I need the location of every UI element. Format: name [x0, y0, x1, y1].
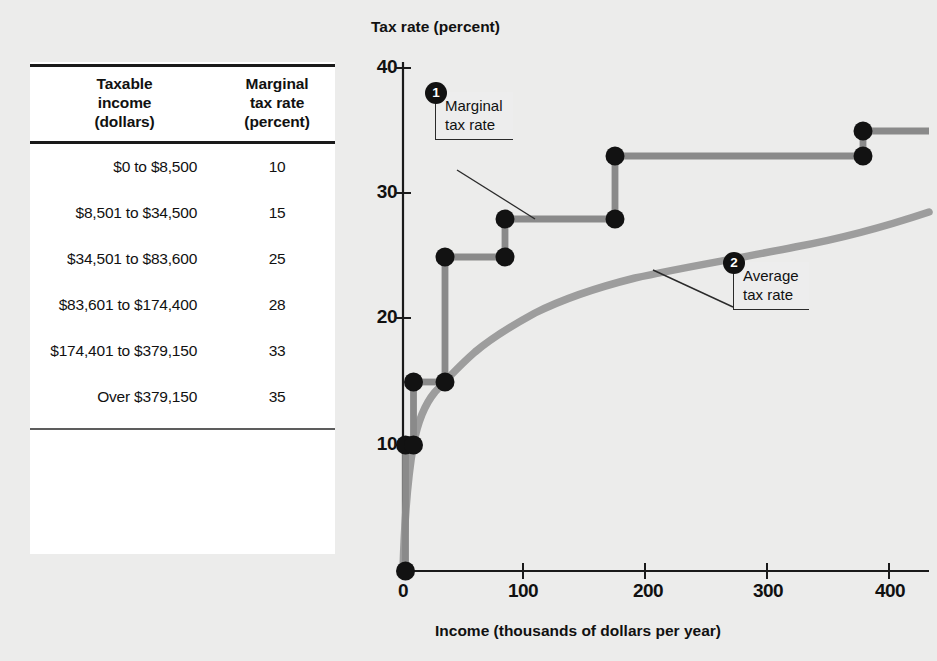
- cell-income: $34,501 to $83,600: [30, 236, 219, 282]
- cell-rate: 28: [219, 282, 335, 328]
- step-marker: [404, 373, 423, 392]
- header-line: Taxable: [30, 74, 219, 93]
- tax-rate-chart: Tax rate (percent) Income (thousands of …: [335, 0, 937, 661]
- step-marker: [496, 210, 515, 229]
- table-row: $0 to $8,500 10: [30, 143, 335, 191]
- marginal-tax-rate-step: [406, 131, 930, 571]
- plot-area: [335, 0, 937, 661]
- tax-bracket-table-panel: Taxable income (dollars) Marginal tax ra…: [30, 62, 335, 554]
- cell-rate: 10: [219, 143, 335, 191]
- cell-rate: 25: [219, 236, 335, 282]
- cell-income: $0 to $8,500: [30, 143, 219, 191]
- step-marker: [854, 147, 873, 166]
- header-line: (dollars): [30, 112, 219, 131]
- step-marker: [606, 147, 625, 166]
- cell-income: Over $379,150: [30, 374, 219, 420]
- header-line: Marginal: [219, 74, 335, 93]
- header-marginal-tax-rate: Marginal tax rate (percent): [219, 66, 335, 140]
- callout-1-box: Marginal tax rate: [435, 92, 513, 140]
- callout-2-leader-line: [653, 270, 733, 307]
- step-marker: [854, 122, 873, 141]
- header-taxable-income: Taxable income (dollars): [30, 66, 219, 140]
- callout-2-line: Average: [743, 266, 799, 285]
- table-row: $34,501 to $83,600 25: [30, 236, 335, 282]
- table-row: Over $379,150 35: [30, 374, 335, 420]
- cell-rate: 35: [219, 374, 335, 420]
- step-marker: [496, 248, 515, 267]
- callout-2-line: tax rate: [743, 285, 799, 304]
- step-marker: [404, 436, 423, 455]
- header-line: (percent): [219, 112, 335, 131]
- table-header-row: Taxable income (dollars) Marginal tax ra…: [30, 66, 335, 140]
- tax-bracket-table: Taxable income (dollars) Marginal tax ra…: [30, 62, 335, 430]
- callout-1-badge: 1: [425, 82, 447, 104]
- table-rule-bottom: [30, 426, 335, 429]
- header-line: income: [30, 93, 219, 112]
- table-row: $83,601 to $174,400 28: [30, 282, 335, 328]
- cell-income: $83,601 to $174,400: [30, 282, 219, 328]
- callout-1-line: Marginal: [445, 96, 503, 115]
- callout-1-leader-line: [457, 170, 535, 219]
- cell-rate: 15: [219, 190, 335, 236]
- cell-income: $8,501 to $34,500: [30, 190, 219, 236]
- step-marker: [436, 248, 455, 267]
- callout-1-line: tax rate: [445, 115, 503, 134]
- table-row: $174,401 to $379,150 33: [30, 328, 335, 374]
- callout-2-box: Average tax rate: [733, 262, 809, 310]
- average-tax-rate-curve: [403, 212, 929, 571]
- cell-income: $174,401 to $379,150: [30, 328, 219, 374]
- table-row: $8,501 to $34,500 15: [30, 190, 335, 236]
- figure-root: Taxable income (dollars) Marginal tax ra…: [0, 0, 937, 661]
- header-line: tax rate: [219, 93, 335, 112]
- step-markers: [396, 122, 873, 581]
- cell-rate: 33: [219, 328, 335, 374]
- step-marker: [606, 210, 625, 229]
- step-marker: [396, 562, 415, 581]
- step-marker: [436, 373, 455, 392]
- callout-2-badge: 2: [723, 252, 745, 274]
